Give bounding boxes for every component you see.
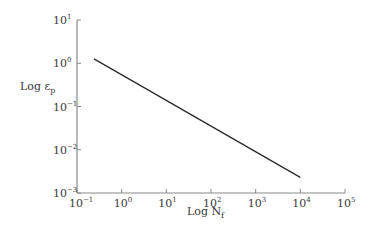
log-log-chart: 10−110010110210310410510110010−110−210−3… [0,0,370,230]
y-axis-label: Log εp [20,80,55,95]
series-line [94,59,300,177]
y-tick-label: 10−1 [53,100,77,114]
axes [77,20,345,193]
tick-marks [77,20,345,193]
x-tick-label: 100 [114,196,132,210]
x-tick-label: 10−1 [69,196,93,210]
x-tick-label: 101 [158,196,176,210]
tick-labels: 10−110010110210310410510110010−110−210−3 [53,13,355,210]
x-tick-label: 104 [292,196,311,210]
y-tick-label: 101 [53,13,71,27]
data-series [94,59,300,177]
x-axis-label: Log Nf [187,205,225,220]
y-tick-label: 100 [53,56,71,70]
y-tick-label: 10−2 [53,143,77,157]
x-tick-label: 105 [337,196,355,210]
x-tick-label: 103 [248,196,266,210]
